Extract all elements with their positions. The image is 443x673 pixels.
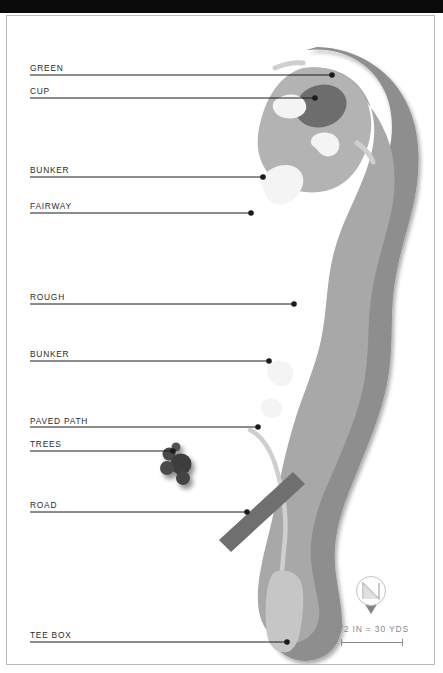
- cart-path-stub-top: [275, 63, 303, 68]
- scale-legend: 1/2 IN = 30 YDS: [324, 624, 420, 646]
- page-root: GREENCUPBUNKERFAIRWAYROUGHBUNKERPAVED PA…: [0, 0, 443, 673]
- scale-bar-cap-left: [341, 639, 342, 646]
- bunker-small: [261, 398, 282, 418]
- top-black-bar: [0, 0, 443, 13]
- callout-label: TEE BOX: [30, 630, 72, 640]
- callout-dot: [244, 509, 250, 515]
- bunker-fairway-upper: [259, 165, 303, 204]
- callout-label: FAIRWAY: [30, 201, 72, 211]
- scale-text: 1/2 IN = 30 YDS: [324, 624, 420, 634]
- callout-dot: [284, 639, 290, 645]
- callout-label: PAVED PATH: [30, 416, 88, 426]
- trees: [160, 443, 192, 486]
- callout-label: TREES: [30, 439, 62, 449]
- callout-dot: [329, 72, 335, 78]
- callout-label: GREEN: [30, 63, 64, 73]
- callout-dot: [291, 301, 297, 307]
- callout-label: ROAD: [30, 500, 57, 510]
- callout-dot: [260, 174, 266, 180]
- scale-bar: [341, 639, 403, 646]
- callout-dot: [266, 358, 272, 364]
- bunker-fairway-lower: [267, 360, 293, 386]
- scale-bar-line: [341, 642, 403, 643]
- callout-label: CUP: [30, 86, 50, 96]
- callout-dot: [248, 210, 254, 216]
- tee-box: [266, 570, 304, 652]
- compass-rose-icon: [354, 574, 388, 616]
- callout-dot: [312, 95, 318, 101]
- callout-label: ROUGH: [30, 292, 65, 302]
- callout-dot: [255, 424, 261, 430]
- callout-label: BUNKER: [30, 349, 69, 359]
- scale-bar-cap-right: [402, 639, 403, 646]
- callout-dot: [170, 448, 176, 454]
- callout-label: BUNKER: [30, 165, 69, 175]
- map-frame: GREENCUPBUNKERFAIRWAYROUGHBUNKERPAVED PA…: [6, 15, 435, 665]
- golf-hole-map: [7, 16, 434, 664]
